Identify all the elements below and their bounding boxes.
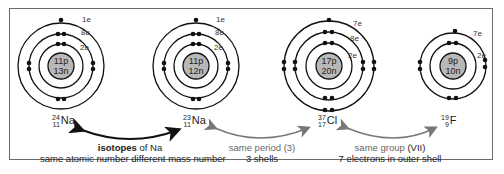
svg-text:2e: 2e	[477, 51, 486, 60]
svg-text:8e: 8e	[215, 28, 224, 37]
svg-text:2e: 2e	[214, 43, 223, 52]
period-caption: same period (3) 3 shells	[222, 142, 302, 164]
svg-text:7e: 7e	[473, 29, 482, 38]
isotopes-caption: isotopes of Na same atomic number differ…	[40, 142, 220, 164]
svg-text:11p: 11p	[189, 56, 203, 66]
na24-protons: 11p	[54, 56, 68, 66]
group-caption: same group (VII) 7 electrons in outer sh…	[330, 142, 450, 164]
na24-symbol: 2411Na	[52, 114, 75, 128]
atom-na24: 11p 13n 1e 8e 2e	[18, 15, 104, 109]
na24-neutrons: 13n	[53, 66, 68, 76]
svg-text:8e: 8e	[350, 34, 359, 43]
svg-text:1e: 1e	[82, 15, 91, 24]
isotopes-arrow	[82, 130, 178, 139]
svg-text:12n: 12n	[188, 66, 203, 76]
svg-text:9p: 9p	[448, 56, 458, 66]
svg-text:1e: 1e	[216, 15, 225, 24]
svg-text:8e: 8e	[81, 28, 90, 37]
group-arrow	[347, 128, 435, 138]
na23-symbol: 2311Na	[183, 114, 206, 128]
f19-symbol: 199F	[441, 114, 457, 128]
svg-text:17p: 17p	[321, 56, 336, 66]
atom-f19: 9p 10n 7e 2e	[418, 29, 488, 101]
svg-text:2e: 2e	[348, 51, 357, 60]
svg-text:10n: 10n	[445, 66, 460, 76]
atom-na23: 11p 12n 1e 8e 2e	[153, 15, 239, 109]
svg-text:7e: 7e	[353, 19, 362, 28]
svg-text:2e: 2e	[80, 43, 89, 52]
svg-text:20n: 20n	[321, 66, 336, 76]
period-arrow	[215, 128, 308, 138]
atom-cl37: 17p 20n 7e 8e 2e	[282, 18, 377, 113]
cl37-symbol: 3717Cl	[318, 114, 337, 128]
